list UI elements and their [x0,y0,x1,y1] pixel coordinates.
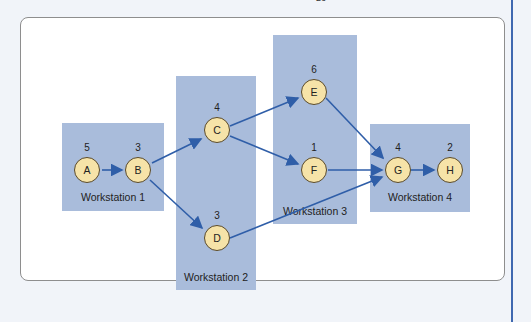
edge-e-g [326,98,383,158]
node-f-time: 1 [301,142,327,153]
node-d: D [204,225,230,251]
node-d-time: 3 [204,210,230,221]
node-g-time: 4 [385,142,411,153]
edge-c-e [230,98,298,126]
edge-d-g [230,177,382,238]
node-e-time: 6 [301,64,327,75]
node-c: C [204,117,230,143]
node-c-time: 4 [204,102,230,113]
node-f: F [301,157,327,183]
edge-b-c [152,139,201,163]
node-b-time: 3 [125,142,151,153]
node-h: H [437,157,463,183]
node-h-time: 2 [437,142,463,153]
node-a-time: 5 [74,142,100,153]
node-a: A [74,157,100,183]
edge-b-d [150,180,202,228]
node-g: G [385,157,411,183]
edge-c-f [230,136,298,164]
node-e: E [301,79,327,105]
node-b: B [125,157,151,183]
